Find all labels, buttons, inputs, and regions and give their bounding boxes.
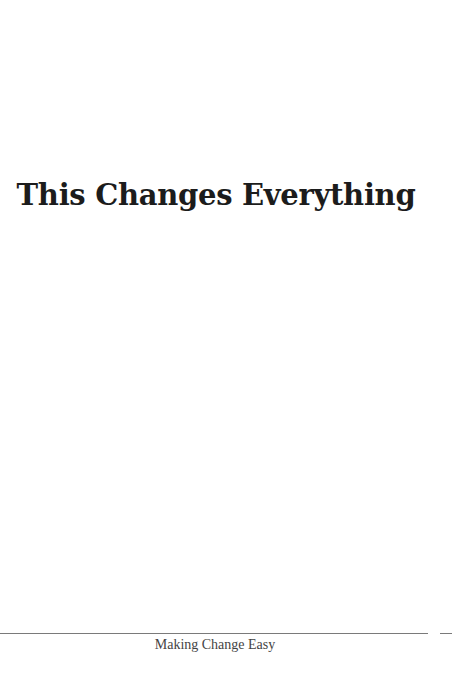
- footer-rule: [0, 633, 428, 634]
- running-footer: Making Change Easy: [0, 637, 430, 653]
- chapter-title: This Changes Everything: [0, 178, 432, 212]
- document-page: This Changes Everything Making Change Ea…: [0, 0, 456, 699]
- footer-dash: [440, 633, 452, 634]
